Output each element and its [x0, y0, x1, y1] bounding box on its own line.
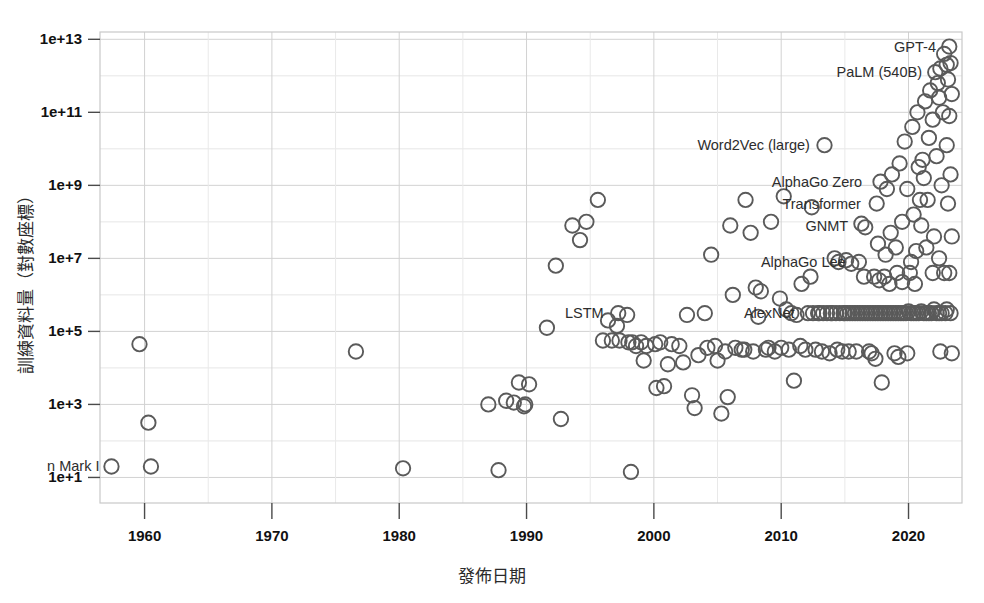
axis-ticks: 19601970198019902000201020201e+11e+31e+5…: [40, 30, 925, 544]
point-annotation-label: GNMT: [805, 218, 848, 234]
scatter-point: [721, 390, 735, 404]
point-annotation-label: Word2Vec (large): [697, 137, 810, 153]
scatter-point: [554, 412, 568, 426]
scatter-point: [891, 350, 905, 364]
scatter-point: [869, 196, 883, 210]
scatter-point: [540, 321, 554, 335]
x-axis-title: 發佈日期: [0, 562, 984, 587]
scatter-point: [817, 138, 831, 152]
scatter-point: [591, 193, 605, 207]
y-tick-label: 1e+3: [48, 395, 82, 412]
scatter-point: [898, 134, 912, 148]
scatter-point: [714, 406, 728, 420]
point-annotation-label: AlphaGo Lee: [761, 254, 846, 270]
scatter-point: [900, 182, 914, 196]
scatter-point: [512, 375, 526, 389]
scatter-point: [927, 229, 941, 243]
x-tick-label: 1970: [255, 527, 288, 544]
scatter-plot: 19601970198019902000201020201e+11e+31e+5…: [0, 0, 984, 603]
point-annotation-label: AlexNet: [744, 305, 795, 321]
scatter-point: [738, 193, 752, 207]
scatter-point: [875, 375, 889, 389]
scatter-point: [773, 291, 787, 305]
scatter-point: [396, 461, 410, 475]
scatter-point: [549, 258, 563, 272]
chart-figure: 19601970198019902000201020201e+11e+31e+5…: [0, 0, 984, 603]
y-tick-label: 1e+13: [40, 30, 82, 47]
scatter-point: [723, 218, 737, 232]
scatter-point: [945, 229, 959, 243]
scatter-point: [803, 269, 817, 283]
scatter-point: [889, 240, 903, 254]
x-tick-label: 2010: [765, 527, 798, 544]
x-tick-label: 2020: [892, 527, 925, 544]
scatter-point: [698, 306, 712, 320]
scatter-point: [905, 120, 919, 134]
scatter-point: [141, 415, 155, 429]
point-annotations: n Mark ILSTMAlexNetAlphaGo LeeGNMTTransf…: [47, 39, 936, 475]
y-axis-title: 訓練資料量（對數座標）: [12, 71, 37, 491]
scatter-point: [926, 112, 940, 126]
scatter-point: [854, 216, 868, 230]
scatter-point: [883, 226, 897, 240]
x-tick-label: 1990: [510, 527, 543, 544]
x-tick-label: 1960: [128, 527, 161, 544]
point-annotation-label: AlphaGo Zero: [772, 174, 862, 190]
scatter-point: [941, 196, 955, 210]
scatter-point: [620, 308, 634, 322]
scatter-point: [943, 167, 957, 181]
scatter-point: [940, 138, 954, 152]
y-tick-label: 1e+11: [41, 103, 82, 120]
scatter-point: [743, 226, 757, 240]
y-tick-label: 1e+5: [48, 322, 82, 339]
scatter-point: [794, 277, 808, 291]
scatter-point: [491, 463, 505, 477]
y-tick-label: 1e+7: [48, 249, 82, 266]
y-tick-label: 1e+9: [48, 176, 82, 193]
scatter-point: [787, 373, 801, 387]
scatter-point: [932, 91, 946, 105]
point-annotation-label: Transformer: [782, 196, 861, 212]
x-tick-label: 1980: [383, 527, 416, 544]
scatter-point: [680, 308, 694, 322]
scatter-point: [661, 357, 675, 371]
scatter-point: [892, 156, 906, 170]
point-annotation-label: PaLM (540B): [837, 64, 922, 80]
scatter-point: [922, 131, 936, 145]
scatter-point: [914, 218, 928, 232]
scatter-point: [704, 248, 718, 262]
scatter-point: [573, 233, 587, 247]
scatter-point: [144, 459, 158, 473]
scatter-point: [104, 459, 118, 473]
scatter-point: [522, 377, 536, 391]
x-tick-label: 2000: [637, 527, 670, 544]
scatter-point: [565, 218, 579, 232]
point-annotation-label: LSTM: [565, 305, 604, 321]
scatter-point: [871, 237, 885, 251]
scatter-point: [636, 353, 650, 367]
point-annotation-label: GPT-4: [894, 39, 936, 55]
scatter-point: [349, 344, 363, 358]
point-annotation-label: n Mark I: [47, 458, 99, 474]
scatter-point: [691, 348, 705, 362]
